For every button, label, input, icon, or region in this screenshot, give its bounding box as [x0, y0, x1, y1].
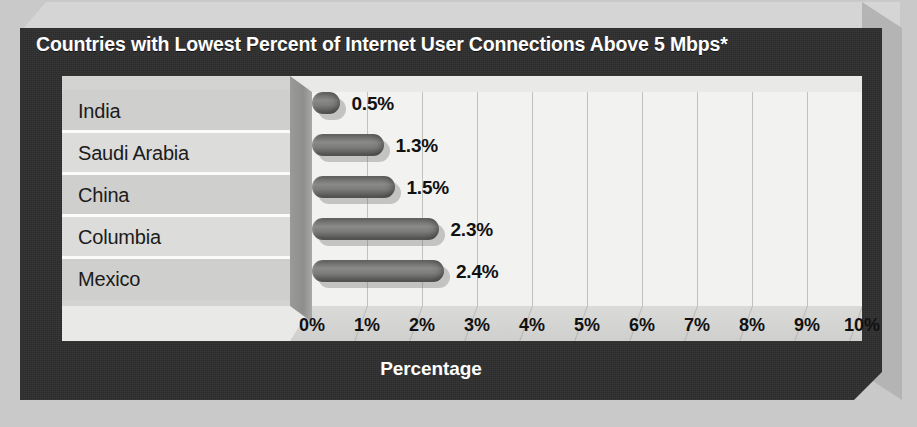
category-separator	[62, 256, 290, 259]
category-separator	[62, 214, 290, 217]
bar-value-label: 2.4%	[456, 261, 499, 283]
gridline	[532, 92, 533, 306]
gridline	[807, 92, 808, 306]
category-separator	[62, 130, 290, 133]
category-separator	[62, 172, 290, 175]
bar-value-label: 1.3%	[396, 135, 439, 157]
category-axis: IndiaSaudi ArabiaChinaColumbiaMexico	[62, 76, 290, 306]
x-tick-label: 10%	[844, 315, 880, 336]
gridline	[752, 92, 753, 306]
bar	[312, 134, 384, 156]
bar	[312, 260, 444, 282]
axis-wall-3d	[290, 76, 312, 322]
x-tick-label: 5%	[574, 315, 600, 336]
category-band: China	[62, 174, 290, 216]
bar	[312, 92, 340, 114]
bar-value-label: 0.5%	[352, 93, 395, 115]
category-label: Saudi Arabia	[62, 142, 189, 165]
category-label: Mexico	[62, 268, 140, 291]
bar	[312, 176, 395, 198]
frame-bevel-top	[20, 2, 900, 32]
x-tick-label: 3%	[464, 315, 490, 336]
gridline	[642, 92, 643, 306]
x-tick-label: 4%	[519, 315, 545, 336]
category-label: Columbia	[62, 226, 161, 249]
category-label: India	[62, 100, 120, 123]
x-tick-label: 8%	[739, 315, 765, 336]
bar-value-label: 2.3%	[451, 219, 494, 241]
category-band: Saudi Arabia	[62, 132, 290, 174]
chart-title: Countries with Lowest Percent of Interne…	[36, 33, 886, 56]
category-band: Columbia	[62, 216, 290, 258]
plot-panel: IndiaSaudi ArabiaChinaColumbiaMexico 0.5…	[62, 76, 862, 341]
chart-frame: Countries with Lowest Percent of Interne…	[0, 0, 917, 427]
x-tick-label: 0%	[299, 315, 325, 336]
bar-value-label: 1.5%	[407, 177, 450, 199]
x-tick-label: 9%	[794, 315, 820, 336]
bar	[312, 218, 439, 240]
x-tick-label: 2%	[409, 315, 435, 336]
category-band: Mexico	[62, 258, 290, 300]
category-band: India	[62, 90, 290, 132]
x-tick-label: 1%	[354, 315, 380, 336]
gridline	[697, 92, 698, 306]
x-tick-label: 7%	[684, 315, 710, 336]
x-tick-label: 6%	[629, 315, 655, 336]
category-label: China	[62, 184, 129, 207]
x-axis-title: Percentage	[0, 358, 862, 380]
gridline	[587, 92, 588, 306]
